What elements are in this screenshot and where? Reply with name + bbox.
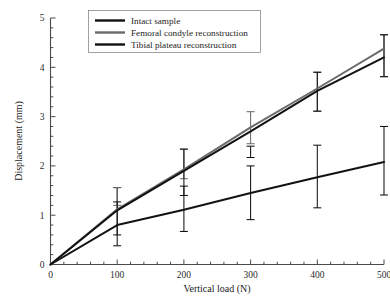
x-tick-label: 400 [310, 270, 325, 280]
x-axis-title: Vertical load (N) [183, 283, 250, 295]
chart-legend: Intact sample Femoral condyle reconstruc… [89, 11, 261, 53]
x-tick-label: 100 [110, 270, 125, 280]
x-tick-label: 300 [243, 270, 258, 280]
legend-label-tibial: Tibial plateau reconstruction [131, 40, 237, 50]
y-tick-label: 0 [40, 260, 45, 270]
y-tick-label: 3 [40, 112, 45, 122]
y-tick-label: 5 [40, 13, 45, 23]
y-tick-label: 2 [40, 161, 45, 171]
y-axis-title: Displacement (mm) [13, 101, 25, 181]
x-tick-label: 500 [377, 270, 390, 280]
x-tick-label: 0 [48, 270, 53, 280]
y-tick-label: 4 [40, 63, 45, 73]
x-tick-label: 200 [177, 270, 192, 280]
line-chart-svg: 012345 Displacement (mm) 010020030040050… [0, 0, 390, 299]
chart-figure: 012345 Displacement (mm) 010020030040050… [0, 0, 390, 299]
legend-label-femoral: Femoral condyle reconstruction [131, 28, 248, 38]
legend-label-intact: Intact sample [131, 16, 180, 26]
y-tick-label: 1 [40, 211, 45, 221]
